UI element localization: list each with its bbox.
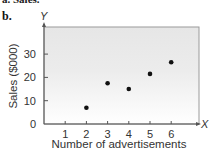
y-axis-arrow-icon — [42, 22, 46, 27]
y-tick-label: 10 — [24, 95, 36, 107]
y-tick-label: 30 — [24, 48, 36, 60]
y-tick-label: 0 — [30, 118, 36, 130]
x-axis-letter: X — [200, 118, 209, 130]
data-point — [105, 81, 110, 86]
x-axis-title: Number of advertisements — [52, 138, 187, 150]
plot-area — [44, 27, 199, 124]
data-point — [127, 87, 132, 92]
y-axis-title: Sales ($000) — [7, 43, 19, 108]
data-point — [148, 72, 153, 77]
y-axis-letter: Y — [40, 10, 48, 22]
data-point — [84, 105, 89, 110]
y-tick-label: 20 — [24, 71, 36, 83]
scatter-chart: 0102030 123456 Y X Number of advertiseme… — [0, 0, 209, 153]
data-point — [169, 60, 174, 65]
